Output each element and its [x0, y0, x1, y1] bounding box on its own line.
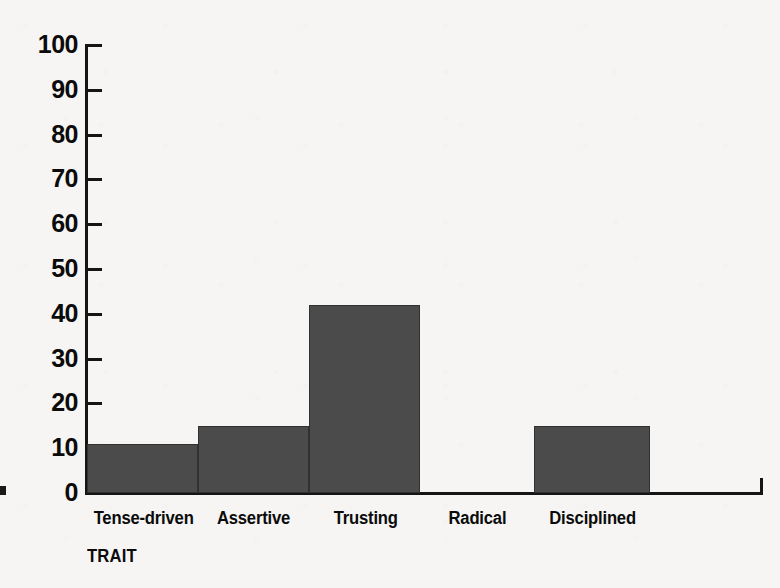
bar-tense-driven — [87, 444, 198, 493]
bar-disciplined — [534, 426, 650, 493]
x-axis-label-trusting: Trusting — [333, 508, 397, 529]
y-axis-tick-label: 60 — [4, 211, 78, 236]
y-axis-tick-labels: 0102030405060708090100 — [0, 0, 78, 588]
bar-chart-figure: 0102030405060708090100 Tense-drivenAsser… — [0, 0, 780, 588]
bar-trusting — [309, 305, 420, 493]
y-axis-tick-label: 0 — [4, 480, 78, 505]
y-axis-tick-label: 20 — [4, 390, 78, 415]
y-axis-tick-label: 70 — [4, 166, 78, 191]
x-axis-title: TRAIT — [87, 546, 137, 567]
x-axis-label-disciplined: Disciplined — [549, 508, 636, 529]
x-axis-label-tense-driven: Tense-driven — [93, 508, 193, 529]
bar-assertive — [198, 426, 309, 493]
x-axis-category-labels: Tense-drivenAssertiveTrustingRadicalDisc… — [0, 508, 780, 538]
y-axis-tick-label: 40 — [4, 301, 78, 326]
x-axis-label-radical: Radical — [448, 508, 506, 529]
y-axis-tick-label: 50 — [4, 256, 78, 281]
x-axis-label-assertive: Assertive — [216, 508, 289, 529]
y-axis-tick-label: 10 — [4, 435, 78, 460]
y-axis-tick-label: 90 — [4, 77, 78, 102]
y-axis-tick-label: 30 — [4, 346, 78, 371]
y-axis-tick-label: 100 — [4, 32, 78, 57]
plot-area — [87, 45, 762, 493]
y-axis-tick-label: 80 — [4, 122, 78, 147]
